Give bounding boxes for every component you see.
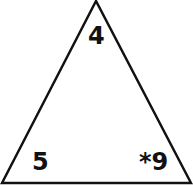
bottom-left-number: 5 <box>32 150 49 174</box>
bottom-right-number: *9 <box>139 150 168 174</box>
top-number: 4 <box>88 24 105 48</box>
